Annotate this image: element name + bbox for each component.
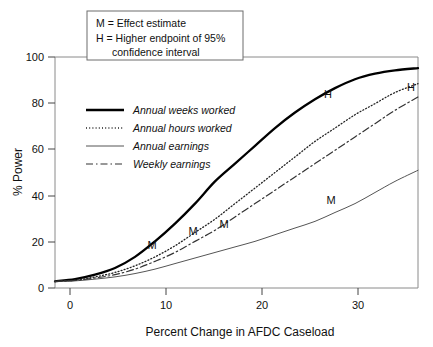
data-series-group: [55, 68, 418, 281]
legend-label-annual-hours-worked: Annual hours worked: [132, 122, 233, 134]
note-line-3: confidence interval: [112, 46, 200, 58]
y-tick-label-60: 60: [32, 143, 44, 155]
annotation-marker-m: M: [147, 239, 156, 251]
chart-legend: Annual weeks worked Annual hours worked …: [86, 104, 236, 170]
y-axis-tick-labels: 100 80 60 40 20 0: [26, 51, 44, 294]
series-annual-weeks-worked: [55, 68, 418, 281]
power-curve-chart: 100 80 60 40 20 0 0 10 20 30 Percent Cha…: [0, 0, 433, 347]
series-annual-hours-worked: [55, 84, 418, 282]
legend-label-annual-weeks-worked: Annual weeks worked: [132, 104, 236, 116]
y-tick-label-100: 100: [26, 51, 44, 63]
x-axis-title: Percent Change in AFDC Caseload: [146, 325, 335, 339]
plot-frame: [55, 57, 418, 288]
annotation-marker-m: M: [219, 218, 228, 230]
x-tick-label-20: 20: [256, 299, 268, 311]
y-tick-label-0: 0: [38, 282, 44, 294]
y-tick-label-20: 20: [32, 236, 44, 248]
legend-label-weekly-earnings: Weekly earnings: [133, 158, 211, 170]
y-tick-label-80: 80: [32, 97, 44, 109]
series-weekly-earnings: [55, 97, 418, 281]
x-axis-ticks: [70, 288, 358, 295]
y-axis-ticks: [48, 57, 55, 288]
note-line-2: H = Higher endpoint of 95%: [96, 32, 225, 44]
annotation-marker-m: M: [326, 194, 335, 206]
chart-figure: 100 80 60 40 20 0 0 10 20 30 Percent Cha…: [0, 0, 433, 347]
x-tick-label-0: 0: [67, 299, 73, 311]
annotation-marker-m: M: [188, 225, 197, 237]
x-tick-label-10: 10: [160, 299, 172, 311]
legend-label-annual-earnings: Annual earnings: [132, 140, 210, 152]
x-tick-label-30: 30: [352, 299, 364, 311]
x-axis-tick-labels: 0 10 20 30: [67, 299, 364, 311]
y-axis-title: % Power: [11, 148, 25, 196]
note-line-1: M = Effect estimate: [96, 17, 186, 29]
annotation-marker-h: H: [324, 88, 332, 100]
y-tick-label-40: 40: [32, 190, 44, 202]
series-annual-earnings: [55, 170, 418, 281]
note-box: M = Effect estimate H = Higher endpoint …: [87, 11, 243, 60]
annotation-marker-h: H: [407, 81, 415, 93]
